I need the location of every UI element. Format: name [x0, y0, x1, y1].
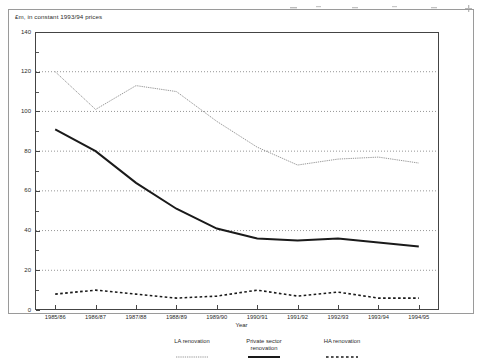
x-tick	[338, 305, 339, 310]
series-line-0	[55, 72, 419, 165]
legend-swatch-1	[232, 355, 296, 359]
chart-legend: LA renovation Private sectorrenovationHA…	[0, 330, 483, 361]
legend-swatch-0	[160, 355, 224, 359]
x-tick	[298, 305, 299, 310]
y-tick-label: 120	[9, 68, 31, 74]
x-tick-label: 1993/94	[356, 314, 400, 320]
x-tick-label: 1986/87	[74, 314, 118, 320]
legend-label-2: renovation	[232, 345, 296, 352]
y-tick-major	[36, 151, 40, 152]
y-tick-label: 140	[9, 29, 31, 35]
y-tick-minor	[36, 92, 39, 93]
y-tick-major	[36, 191, 40, 192]
x-tick-label: 1988/89	[154, 314, 198, 320]
scan-artifacts	[0, 0, 483, 9]
x-tick-label: 1992/93	[316, 314, 360, 320]
legend-label-spacer	[310, 345, 374, 352]
y-tick-minor	[36, 171, 39, 172]
x-tick-label: 1994/95	[397, 314, 441, 320]
legend-swatch-2	[310, 355, 374, 359]
y-tick-minor	[36, 131, 39, 132]
y-tick-major	[36, 111, 40, 112]
chart-canvas	[35, 32, 439, 310]
legend-label: LA renovation	[160, 338, 224, 345]
legend-item-2[interactable]: HA renovation	[310, 338, 374, 359]
legend-item-1[interactable]: Private sectorrenovation	[232, 338, 296, 359]
y-tick-minor	[36, 211, 39, 212]
y-tick-label: 0	[9, 307, 31, 313]
legend-item-0[interactable]: LA renovation	[160, 338, 224, 359]
y-tick-minor	[36, 290, 39, 291]
x-tick-label: 1990/91	[235, 314, 279, 320]
legend-label: HA renovation	[310, 338, 374, 345]
x-tick-label: 1987/88	[114, 314, 158, 320]
legend-label-spacer	[160, 345, 224, 352]
series-line-1	[55, 129, 419, 246]
series-line-2	[55, 290, 419, 298]
y-tick-major	[36, 270, 40, 271]
x-tick	[217, 305, 218, 310]
x-tick-label: 1989/90	[195, 314, 239, 320]
x-tick	[136, 305, 137, 310]
y-tick-major	[36, 310, 40, 311]
x-tick-label: 1991/92	[276, 314, 320, 320]
y-tick-minor	[36, 250, 39, 251]
series-lines	[55, 72, 419, 298]
y-tick-minor	[36, 52, 39, 53]
y-tick-label: 100	[9, 108, 31, 114]
gridlines	[36, 72, 438, 271]
y-tick-major	[36, 32, 40, 33]
y-tick-major	[36, 72, 40, 73]
x-tick	[257, 305, 258, 310]
x-tick	[96, 305, 97, 310]
chart-unit-note: £m, in constant 1993/94 prices	[15, 13, 102, 20]
y-tick-major	[36, 231, 40, 232]
x-tick	[419, 305, 420, 310]
x-tick	[176, 305, 177, 310]
y-tick-label: 20	[9, 267, 31, 273]
x-axis-title: Year	[0, 322, 483, 328]
x-tick-label: 1985/86	[33, 314, 77, 320]
x-tick	[55, 305, 56, 310]
y-tick-label: 80	[9, 148, 31, 154]
chart-page: £m, in constant 1993/94 prices 020406080…	[0, 0, 483, 361]
x-tick	[378, 305, 379, 310]
y-tick-label: 60	[9, 187, 31, 193]
legend-label: Private sector	[232, 338, 296, 345]
y-tick-label: 40	[9, 227, 31, 233]
